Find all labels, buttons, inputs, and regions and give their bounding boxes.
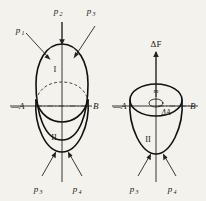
label-axis-B-left: B [93,101,99,111]
right-arrow-p3-bottom [138,154,151,176]
left-arrow-p3-top [74,26,95,58]
label-mass-m: m [153,87,158,95]
label-region-II-left: II [51,132,57,142]
label-p4-bottom-subscript: 4 [79,189,82,195]
label-p4-bottom-right-subscript: 4 [174,189,177,195]
label-delta-A: ΔA [161,108,171,117]
label-p2: p [53,6,59,16]
label-p3-top: p [86,6,92,16]
label-p4-bottom: p [72,184,78,194]
label-p3-bottom-subscript: 3 [39,189,43,195]
label-region-II-right: II [145,134,151,144]
right-arrow-p4-bottom [163,154,176,176]
left-arrow-p2 [59,22,65,45]
label-p2-subscript: 2 [60,11,63,17]
left-arrow-p4-bottom [68,152,82,176]
label-axis-B-right: B [190,101,196,111]
left-arrow-p3-bottom [42,152,56,176]
right-diagram-group: ΔF m ΔA —A B II p 3 p 4 [112,39,198,195]
label-p3-bottom: p [33,184,39,194]
label-p3-top-subscript: 3 [92,11,96,17]
label-axis-A-right: —A [112,101,127,111]
label-region-I-left: I [54,64,57,74]
label-p1: p [15,25,21,35]
figure-container: p 1 p 2 p 3 p 3 p 4 —A B I II [0,0,206,201]
left-diagram-group: p 1 p 2 p 3 p 3 p 4 —A B I II [10,6,99,195]
diagram-canvas: p 1 p 2 p 3 p 3 p 4 —A B I II [0,0,206,201]
label-p4-bottom-right: p [167,184,173,194]
label-p3-bottom-right: p [129,184,135,194]
label-p3-bottom-right-subscript: 3 [135,189,139,195]
label-delta-F: ΔF [151,39,162,49]
left-arrow-p1 [26,33,51,60]
label-axis-A-left: —A [10,101,25,111]
label-p1-subscript: 1 [22,30,25,36]
